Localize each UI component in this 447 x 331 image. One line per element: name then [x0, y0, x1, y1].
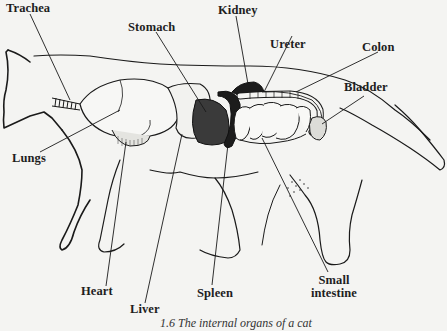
label-liver: Liver: [130, 303, 160, 316]
front-leg-left: [60, 130, 90, 250]
label-small-intestine-line2: intestine: [302, 287, 366, 300]
trachea-shape: [52, 98, 80, 110]
front-leg-right: [99, 160, 124, 252]
label-ureter: Ureter: [270, 38, 306, 51]
label-trachea: Trachea: [6, 2, 50, 15]
leader-small-intestine: [262, 138, 328, 272]
figure-caption: 1.6 The internal organs of a cat: [160, 316, 312, 331]
leader-bladder: [322, 96, 364, 124]
cat-belly: [150, 170, 258, 178]
label-spleen: Spleen: [197, 287, 233, 300]
label-small-intestine: Small intestine: [302, 274, 366, 300]
cat-head-outline: [4, 50, 63, 130]
label-kidney: Kidney: [218, 4, 258, 17]
leader-liver: [145, 134, 182, 303]
lungs-shape: [80, 79, 179, 137]
label-bladder: Bladder: [344, 81, 388, 94]
leader-heart: [106, 142, 126, 286]
thigh-fur: [287, 179, 309, 197]
hind-leg-right: [290, 175, 362, 265]
stomach-shape: [192, 99, 229, 145]
hind-leg-inner: [262, 185, 280, 245]
bladder-shape: [309, 117, 326, 140]
cat-tail: [340, 105, 445, 170]
leader-kidney: [236, 16, 248, 84]
label-colon: Colon: [362, 41, 394, 54]
small-intestine-shape: [234, 102, 311, 143]
leader-spleen: [212, 144, 228, 285]
leader-trachea: [30, 14, 70, 100]
leader-lines: [30, 14, 378, 303]
label-stomach: Stomach: [128, 21, 175, 34]
label-lungs: Lungs: [12, 152, 46, 165]
cat-ear: [8, 50, 30, 62]
label-heart: Heart: [81, 285, 113, 298]
